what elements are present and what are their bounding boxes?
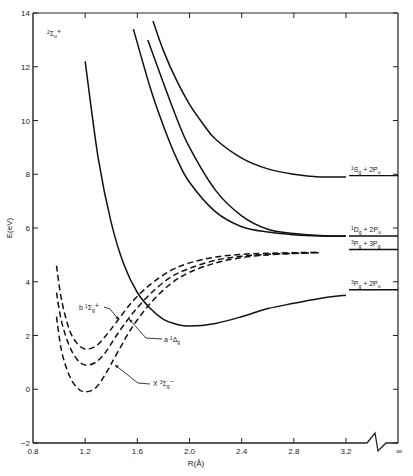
annotation-label: a 1Δg	[164, 335, 180, 345]
y-tick-label: 12	[21, 63, 30, 72]
annotation-leader	[129, 319, 162, 339]
x-tick-label: 2.8	[288, 447, 300, 456]
labels: E(eV) R(Å) 2Σu+b 1Σg+a 1ΔgX 3Σg−	[5, 28, 205, 468]
x-tick-label: 1.2	[80, 447, 92, 456]
y-tick-label: 14	[21, 9, 30, 18]
annotation-leader	[115, 365, 150, 384]
asymptote-label: 3Pg + 2Pu	[351, 279, 381, 289]
x-tick-label: 2.4	[236, 447, 248, 456]
series-line-2-u-state-a	[85, 61, 346, 326]
annotation-label: b 1Σg+	[79, 302, 99, 313]
state-label: 2Σu+	[47, 28, 61, 39]
series-line-b-1-g	[57, 252, 320, 349]
annotation-label: X 3Σg−	[153, 378, 174, 389]
asymptote-label: 1Sg + 2Pu	[351, 165, 381, 175]
x-infinity-label: ∞	[396, 447, 402, 456]
y-tick-label: 0	[26, 385, 31, 394]
asymptote-label: 3Pg + 3Pg	[351, 239, 381, 249]
x-tick-label: 3.2	[340, 447, 352, 456]
y-tick-label: 4	[26, 278, 31, 287]
y-tick-label: 8	[26, 170, 31, 179]
series-line-2-u-state-c	[148, 40, 346, 236]
y-axis-label: E(eV)	[5, 217, 14, 238]
asymptote-label: 1Dg + 2Pu	[351, 225, 381, 235]
curves	[57, 21, 347, 392]
series-line-2-u-state-d	[153, 21, 346, 177]
x-tick-label: 1.6	[132, 447, 144, 456]
series-line-2-u-state-b	[133, 29, 346, 236]
series-line-x-3-g	[57, 253, 314, 392]
y-tick-label: 2	[26, 332, 31, 341]
potential-energy-chart: 0.81.21.62.02.42.83.2∞14121086420−2 1Sg …	[0, 0, 413, 476]
x-tick-label: 2.0	[184, 447, 196, 456]
asymptotes: 1Sg + 2Pu1Dg + 2Pu3Pg + 3Pg3Pg + 2Pu	[349, 165, 398, 290]
x-axis-label: R(Å)	[188, 459, 205, 468]
y-tick-label: 10	[21, 117, 30, 126]
y-tick-label: −2	[21, 439, 31, 448]
x-tick-label: 0.8	[27, 447, 39, 456]
y-tick-label: 6	[26, 224, 31, 233]
